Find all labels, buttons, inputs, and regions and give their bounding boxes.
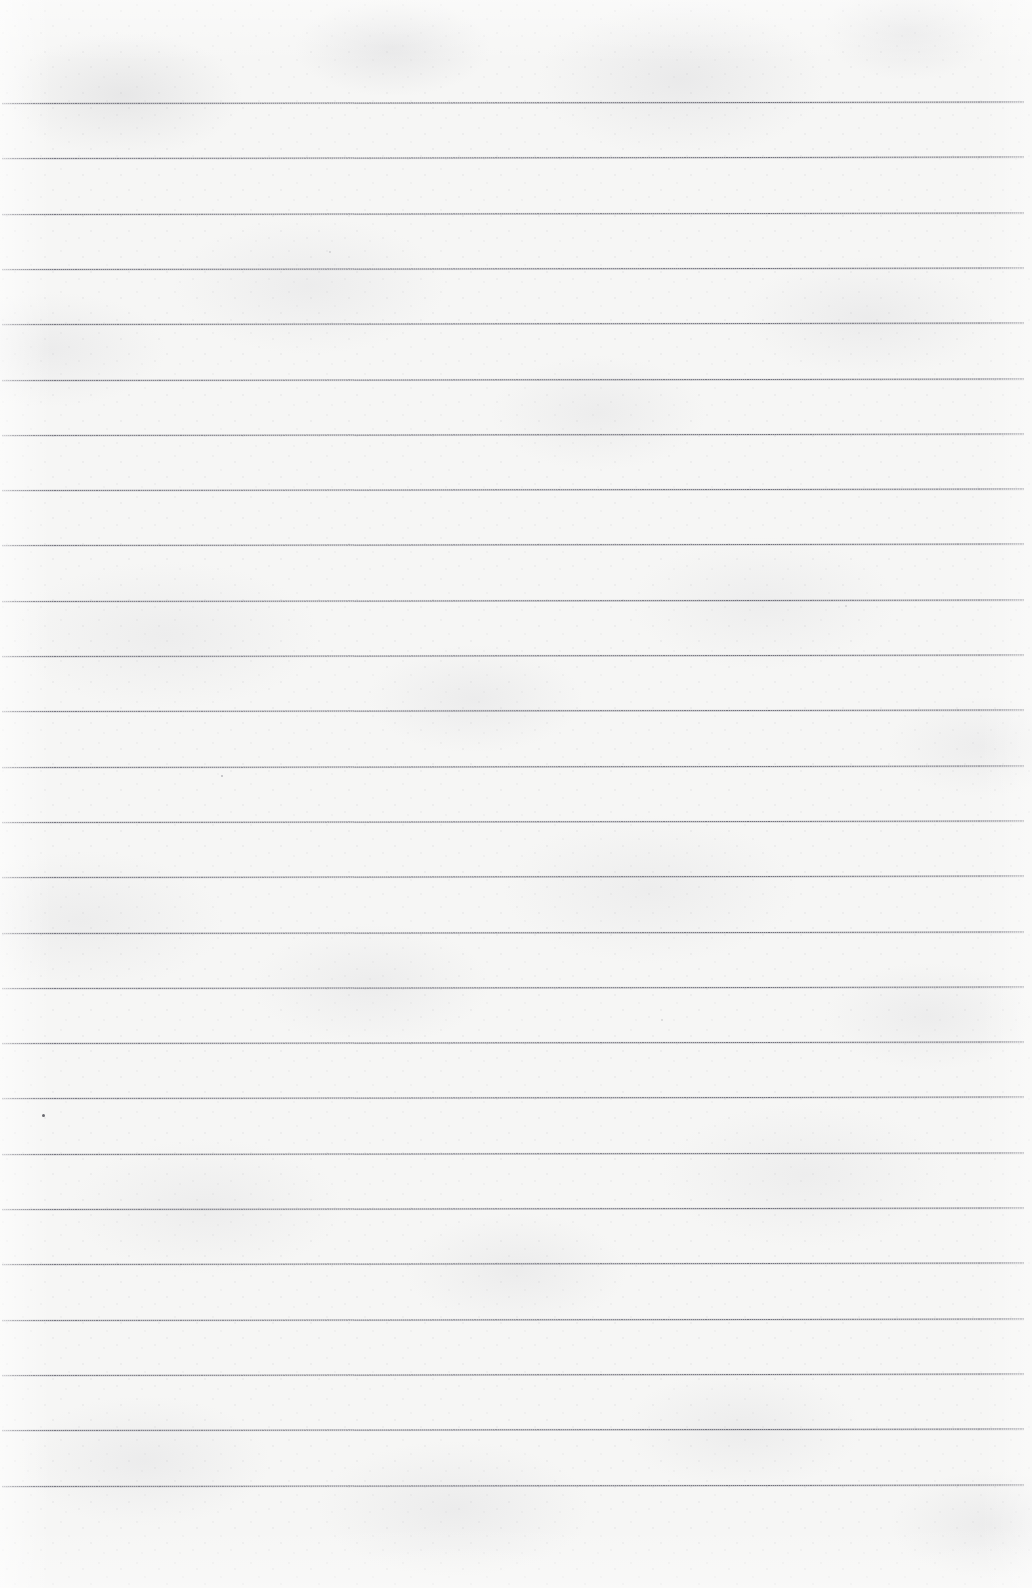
ruled-line [2, 378, 1024, 381]
ruled-line [2, 157, 1024, 160]
ruled-line [2, 820, 1024, 823]
ruled-line [2, 1097, 1024, 1100]
ruled-line [2, 1263, 1024, 1266]
ruled-line [2, 765, 1024, 768]
ruled-line [2, 267, 1024, 270]
ruled-line [2, 323, 1024, 326]
ruled-line [2, 1429, 1024, 1432]
ruled-line [2, 710, 1024, 713]
ruled-line [2, 1152, 1024, 1155]
ruled-line [2, 986, 1024, 989]
ruled-line [2, 655, 1024, 658]
ruled-line [2, 1208, 1024, 1211]
ruled-line [2, 1484, 1024, 1487]
ruled-line [2, 489, 1024, 492]
ruled-line [2, 876, 1024, 879]
ruled-line [2, 1373, 1024, 1376]
ruled-line [2, 599, 1024, 602]
ruled-line [2, 212, 1024, 215]
ruled-line [2, 433, 1024, 436]
ruled-line [2, 1042, 1024, 1045]
lined-paper-page [0, 0, 1032, 1588]
ruled-line [2, 102, 1024, 105]
ruled-lines-group [0, 0, 1032, 1588]
ruled-line [2, 544, 1024, 547]
ruled-line [2, 931, 1024, 934]
ruled-line [2, 1318, 1024, 1321]
